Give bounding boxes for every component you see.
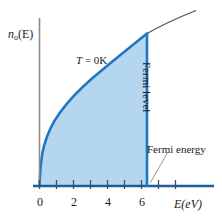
x-tick-label-6: 6 <box>136 196 148 208</box>
x-tick-label-2: 2 <box>68 196 80 208</box>
x-tick-label-0: 0 <box>34 196 46 208</box>
fermi-energy-leader-line <box>150 152 168 183</box>
fermi-level-annotation: Fermi level <box>141 62 152 112</box>
x-tick-label-4: 4 <box>102 196 114 208</box>
x-axis-title: E(eV) <box>174 198 202 210</box>
temperature-annotation: T = 0K <box>76 55 107 66</box>
density-of-states-figure: no(E) E(eV) T = 0K Fermi level Fermi ene… <box>0 0 222 218</box>
fermi-energy-annotation: Fermi energy <box>147 144 206 155</box>
y-axis-title: no(E) <box>8 28 33 42</box>
temperature-value: = 0K <box>82 54 107 66</box>
x-axis-title-unit: (eV) <box>181 197 202 211</box>
y-axis-title-paren: (E) <box>18 27 33 41</box>
unoccupied-continuation-line <box>147 11 196 34</box>
